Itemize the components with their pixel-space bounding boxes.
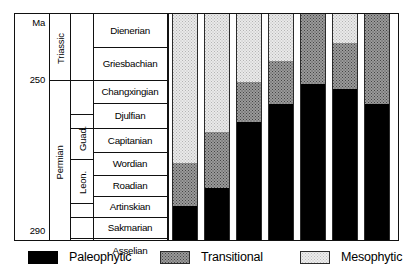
legend-item-mesophytic: Mesophytic [300, 247, 402, 267]
stage-cell-artinskian: Artinskian [93, 196, 167, 217]
stage-cell-changxingian: Changxingian [93, 80, 167, 103]
legend-swatch-mesophytic-icon [300, 251, 330, 264]
stage-label-griesbachian: Griesbachian [103, 58, 158, 69]
stage-cell-capitanian: Capitanian [93, 128, 167, 152]
stage-cell-wordian: Wordian [93, 152, 167, 175]
flora-segment-transitional [300, 14, 326, 84]
age-tick-250: 250 [15, 74, 48, 85]
flora-segment-transitional [204, 132, 230, 189]
flora-segment-transitional [236, 82, 262, 123]
stage-label-changxingian: Changxingian [102, 86, 159, 97]
flora-column-artinskian [236, 14, 262, 240]
flora-segment-paleophytic [204, 188, 230, 240]
flora-segment-mesophytic [172, 14, 198, 163]
series-label-leonardian: Leon. [71, 161, 93, 204]
flora-segment-transitional [332, 43, 358, 88]
stacked-flora-columns-plot [168, 13, 399, 241]
flora-column-djulfian [364, 14, 390, 240]
legend-label-transitional: Transitional [201, 250, 263, 264]
flora-segment-paleophytic [332, 89, 358, 240]
flora-segment-paleophytic [172, 206, 198, 240]
series-label-guadalupian: Guad. [71, 116, 93, 160]
system-label-permian-text: Permian [55, 145, 66, 179]
stratigraphic-column-table: Ma 250 290 Triassic Permian Guad. Leon. … [14, 13, 168, 241]
legend-item-transitional: Transitional [160, 247, 263, 267]
flora-segment-transitional [364, 14, 390, 104]
stage-label-capitanian: Capitanian [108, 135, 152, 146]
legend-item-paleophytic: Paleophytic [28, 247, 131, 267]
legend-label-paleophytic: Paleophytic [69, 250, 131, 264]
stage-label-artinskian: Artinskian [110, 201, 151, 212]
flora-segment-mesophytic [268, 14, 294, 61]
stage-cell-djulfian: Djulfian [93, 103, 167, 128]
boundary-series-top [70, 114, 93, 115]
legend-label-mesophytic: Mesophytic [341, 250, 402, 264]
stage-cell-dienerian: Dienerian [93, 14, 167, 47]
stage-label-sakmarian: Sakmarian [108, 222, 153, 233]
flora-segment-paleophytic [268, 104, 294, 240]
legend: Paleophytic Transitional Mesophytic [0, 247, 413, 271]
age-unit-label: Ma [15, 17, 48, 28]
system-label-triassic: Triassic [50, 14, 70, 82]
system-label-triassic-text: Triassic [55, 33, 66, 64]
legend-swatch-transitional-icon [160, 251, 190, 264]
flora-column-sakmarian [204, 14, 230, 240]
stage-cell-sakmarian: Sakmarian [93, 217, 167, 238]
flora-column-capitanian [332, 14, 358, 240]
stage-cell-griesbachian: Griesbachian [93, 47, 167, 80]
flora-segment-transitional [172, 163, 198, 206]
age-tick-290: 290 [15, 225, 48, 236]
boundary-series-base [70, 203, 93, 204]
series-label-guadalupian-text: Guad. [77, 126, 88, 151]
stage-cell-roadian: Roadian [93, 175, 167, 196]
stage-label-wordian: Wordian [113, 158, 148, 169]
flora-segment-mesophytic [332, 14, 358, 43]
flora-column-roadian [268, 14, 294, 240]
flora-segment-mesophytic [204, 14, 230, 132]
stage-label-dienerian: Dienerian [110, 25, 150, 36]
flora-column-asselian [172, 14, 198, 240]
flora-segment-mesophytic [236, 14, 262, 82]
stage-label-djulfian: Djulfian [115, 110, 146, 121]
stage-label-roadian: Roadian [113, 180, 148, 191]
legend-swatch-paleophytic-icon [28, 251, 58, 264]
flora-segment-paleophytic [300, 84, 326, 240]
boundary-guadalupian-leonardian [70, 159, 93, 160]
paleophytic-mesophytic-transition-figure: Ma 250 290 Triassic Permian Guad. Leon. … [0, 0, 413, 278]
system-label-permian: Permian [50, 83, 70, 241]
series-label-leonardian-text: Leon. [77, 171, 88, 194]
flora-segment-paleophytic [364, 104, 390, 240]
flora-column-wordian [300, 14, 326, 240]
flora-segment-paleophytic [236, 122, 262, 240]
flora-segment-transitional [268, 61, 294, 104]
